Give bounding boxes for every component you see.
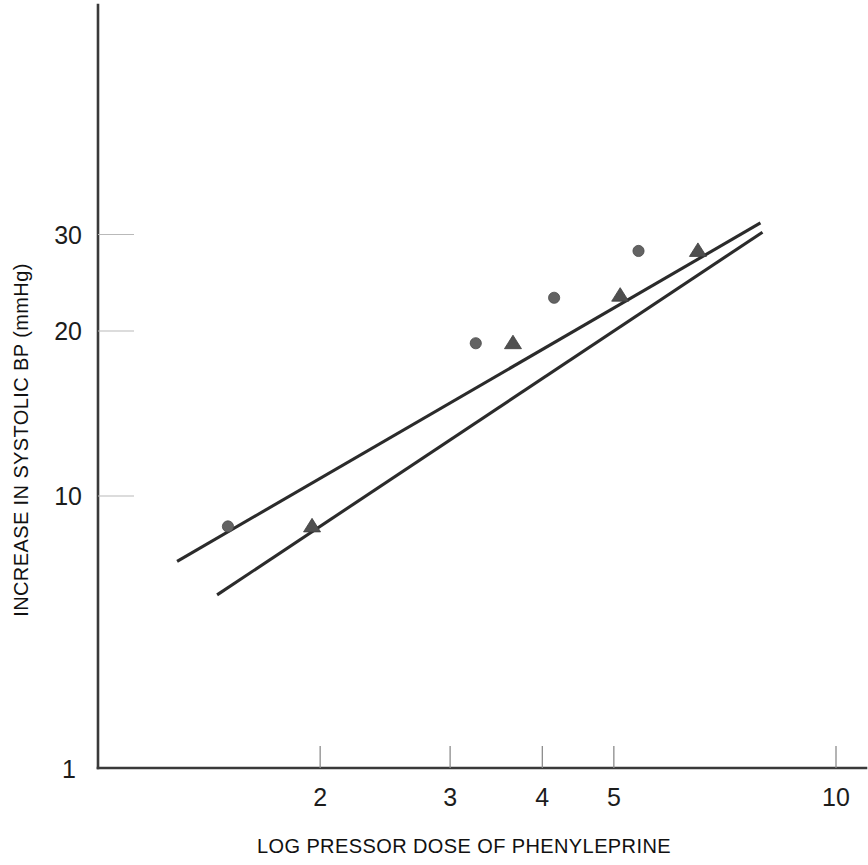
data-point-triangle-series-2 bbox=[612, 288, 629, 302]
data-point-triangle-series-3 bbox=[689, 243, 706, 257]
y-tick-label-10: 10 bbox=[54, 482, 82, 510]
y-axis-ticks bbox=[98, 235, 134, 496]
data-point-circle-series-3 bbox=[633, 245, 644, 256]
fit-line-triangle-series bbox=[217, 232, 762, 595]
x-tick-label-10: 10 bbox=[822, 783, 850, 811]
x-tick-label-4: 4 bbox=[535, 783, 549, 811]
x-axis-tick-labels: 1234510 bbox=[62, 755, 850, 811]
x-axis-title: LOG PRESSOR DOSE OF PHENYLEPRINE bbox=[257, 835, 671, 857]
scatter-plot: 1234510 102030 LOG PRESSOR DOSE OF PHENY… bbox=[0, 0, 868, 865]
fit-line-circle-series bbox=[177, 223, 760, 561]
x-axis-ticks bbox=[320, 746, 836, 768]
data-point-circle-series-1 bbox=[470, 338, 481, 349]
data-point-circle-series-0 bbox=[222, 521, 233, 532]
y-tick-label-1: 1 bbox=[62, 755, 76, 783]
chart-figure: 1234510 102030 LOG PRESSOR DOSE OF PHENY… bbox=[0, 0, 868, 865]
y-tick-label-20: 20 bbox=[54, 317, 82, 345]
y-tick-label-30: 30 bbox=[54, 221, 82, 249]
x-tick-label-3: 3 bbox=[443, 783, 457, 811]
data-markers bbox=[222, 243, 706, 532]
data-point-triangle-series-1 bbox=[504, 335, 521, 349]
x-tick-label-2: 2 bbox=[313, 783, 327, 811]
axis-lines bbox=[98, 5, 866, 768]
data-point-triangle-series-0 bbox=[304, 518, 321, 532]
x-tick-label-5: 5 bbox=[607, 783, 621, 811]
y-axis-title: INCREASE IN SYSTOLIC BP (mmHg) bbox=[10, 263, 32, 617]
regression-lines bbox=[177, 223, 762, 595]
data-point-circle-series-2 bbox=[549, 292, 560, 303]
y-axis-tick-labels: 102030 bbox=[54, 221, 82, 510]
